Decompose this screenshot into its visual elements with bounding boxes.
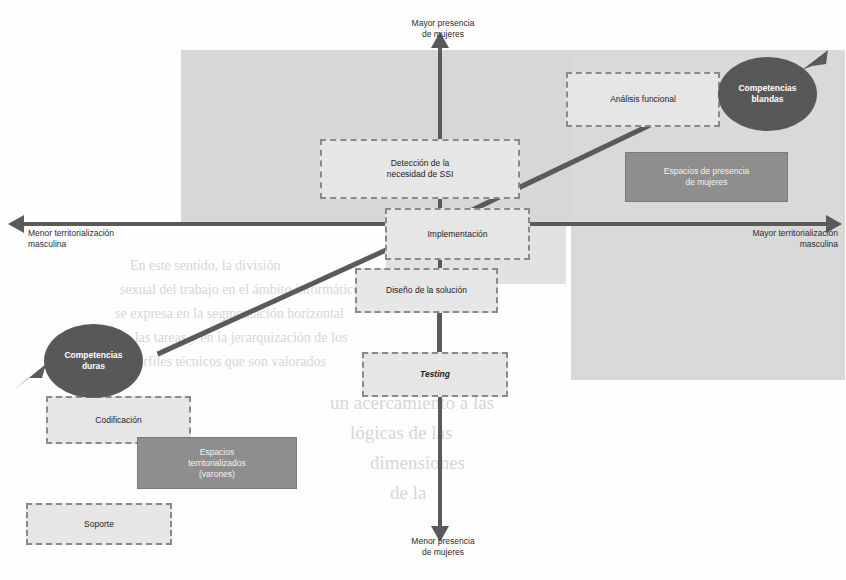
- process-box-analisis-funcional[interactable]: Análisis funcional: [566, 72, 720, 127]
- bleed-text-line: de la tecnología informática, lo que: [200, 86, 412, 103]
- connector-diseno-to-testing: [437, 311, 442, 355]
- bleed-text-line: de las tareas y en la jerarquización de …: [118, 330, 347, 346]
- bleed-text-line: sexual del trabajo en el ámbito informát…: [120, 282, 360, 298]
- arrow-head-duras-icon: [12, 358, 56, 392]
- bleed-text-line: de la: [390, 482, 426, 504]
- process-box-diseno-solucion[interactable]: Diseño de la solución: [355, 268, 498, 313]
- axis-label-top: Mayor presencia de mujeres: [388, 18, 498, 40]
- bleed-text-line: dimensiones: [370, 452, 465, 474]
- axis-label-left: Menor territorialización masculina: [28, 228, 198, 250]
- space-box-espacios-presencia-mujeres[interactable]: Espacios de presencia de mujeres: [625, 152, 788, 202]
- bleed-text-line: En este sentido, la división: [130, 258, 280, 274]
- process-box-testing[interactable]: Testing: [362, 352, 508, 397]
- arrow-head-blandas-icon: [800, 48, 830, 72]
- bleed-text-line: de software y servicios: [190, 182, 328, 199]
- bleed-text-line: permite comprender mejor cómo: [205, 110, 402, 127]
- arrow-left-icon: [8, 215, 24, 233]
- process-box-soporte[interactable]: Soporte: [26, 503, 172, 545]
- axis-label-right: Mayor territorialización masculina: [672, 228, 838, 250]
- competency-node-duras[interactable]: Competencias duras: [44, 324, 143, 398]
- axis-label-bottom: Menor presencia de mujeres: [388, 536, 498, 558]
- bleed-text-line: la dimensión social y organizacional: [195, 62, 414, 79]
- process-box-deteccion[interactable]: Detección de la necesidad de SSI: [320, 139, 520, 199]
- bleed-text-line: perfiles técnicos que son valorados: [130, 354, 326, 370]
- bleed-text-line: lógicas de las: [350, 422, 452, 444]
- diagram-canvas: la dimensión social y organizacionalde l…: [0, 0, 846, 580]
- space-box-espacios-territorializados-varones[interactable]: Espacios territorializados (varones): [137, 437, 297, 489]
- process-box-implementacion[interactable]: Implementación: [385, 208, 530, 260]
